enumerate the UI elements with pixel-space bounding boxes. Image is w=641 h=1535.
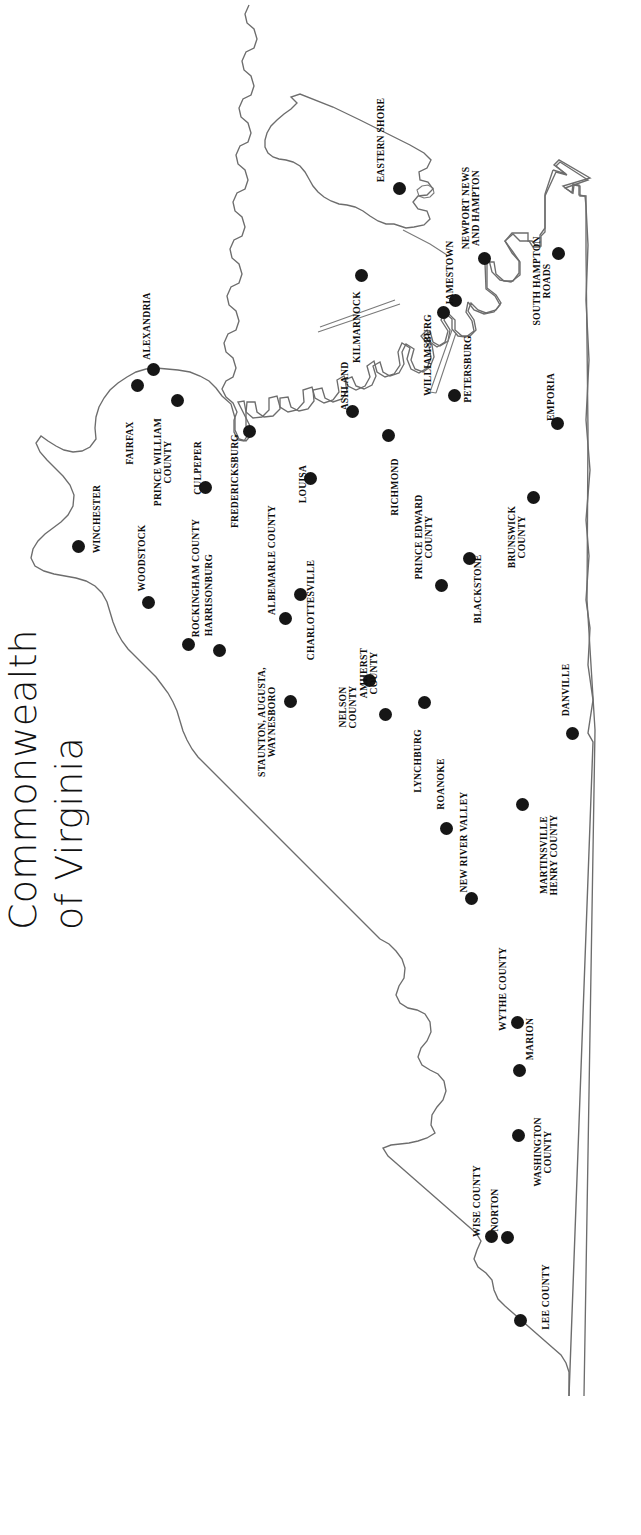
- marker-dot-icon[interactable]: [566, 727, 579, 740]
- marker-label: BLACKSTONE: [473, 555, 483, 624]
- marker-dot-icon[interactable]: [513, 1064, 526, 1077]
- marker-label: WINCHESTER: [92, 485, 102, 554]
- marker-label: SOUTH HAMPTON ROADS: [532, 236, 553, 325]
- marker-label: ALBEMARLE COUNTY: [267, 505, 277, 615]
- marker-dot-icon[interactable]: [355, 269, 368, 282]
- marker-label: FAIRFAX: [125, 421, 135, 465]
- marker-dot-icon[interactable]: [393, 182, 406, 195]
- marker-label: KILMARNOCK: [352, 291, 362, 363]
- map-markers-layer: EASTERN SHOREKILMARNOCKNEWPORT NEWS AND …: [0, 0, 641, 1535]
- marker-label: PRINCE EDWARD COUNTY: [414, 494, 435, 579]
- marker-label: FREDERICKSBURG: [230, 434, 240, 528]
- marker-dot-icon[interactable]: [418, 696, 431, 709]
- marker-dot-icon[interactable]: [72, 540, 85, 553]
- marker-dot-icon[interactable]: [440, 822, 453, 835]
- marker-dot-icon[interactable]: [512, 1129, 525, 1142]
- marker-label: ASHLAND: [340, 362, 350, 411]
- marker-label: LOUISA: [298, 465, 308, 503]
- marker-dot-icon[interactable]: [514, 1314, 527, 1327]
- marker-dot-icon[interactable]: [147, 363, 160, 376]
- marker-label: ALEXANDRIA: [142, 292, 152, 360]
- marker-label: AMHERST COUNTY: [359, 648, 380, 698]
- marker-label: WILLIAMSBURG: [423, 314, 433, 396]
- marker-dot-icon[interactable]: [511, 1016, 524, 1029]
- marker-label: WASHINGTON COUNTY: [533, 1117, 554, 1187]
- marker-label: EMPORIA: [546, 373, 556, 421]
- marker-dot-icon[interactable]: [131, 379, 144, 392]
- marker-label: RICHMOND: [390, 458, 400, 515]
- marker-label: ROCKINGHAM COUNTY: [191, 519, 201, 638]
- marker-dot-icon[interactable]: [284, 695, 297, 708]
- marker-label: PRINCE WILLIAM COUNTY: [153, 418, 174, 506]
- marker-dot-icon[interactable]: [379, 708, 392, 721]
- marker-dot-icon[interactable]: [171, 394, 184, 407]
- marker-dot-icon[interactable]: [478, 252, 491, 265]
- marker-label: DANVILLE: [561, 664, 571, 717]
- marker-dot-icon[interactable]: [448, 389, 461, 402]
- marker-label: PETERSBURG: [463, 335, 473, 403]
- marker-dot-icon[interactable]: [465, 892, 478, 905]
- marker-label: NELSON COUNTY: [338, 685, 359, 728]
- marker-dot-icon[interactable]: [516, 798, 529, 811]
- marker-label: NEW RIVER VALLEY: [459, 791, 469, 892]
- marker-dot-icon[interactable]: [501, 1231, 514, 1244]
- marker-label: WISE COUNTY: [472, 1165, 482, 1237]
- marker-label: WYTHE COUNTY: [498, 947, 508, 1031]
- marker-label: NEWPORT NEWS AND HAMPTON: [461, 167, 482, 250]
- marker-label: CHARLOTTESVILLE: [306, 560, 316, 660]
- marker-label: JAMESTOWN: [445, 241, 455, 306]
- marker-dot-icon[interactable]: [437, 306, 450, 319]
- marker-dot-icon[interactable]: [142, 596, 155, 609]
- marker-label: STAUNTON, AUGUSTA, WAYNESBORO: [257, 667, 278, 777]
- marker-dot-icon[interactable]: [213, 644, 226, 657]
- marker-dot-icon[interactable]: [382, 429, 395, 442]
- marker-dot-icon[interactable]: [435, 579, 448, 592]
- marker-label: MARION: [525, 1018, 535, 1061]
- marker-label: MARTINSVILLE HENRY COUNTY: [539, 815, 560, 896]
- marker-dot-icon[interactable]: [182, 638, 195, 651]
- marker-label: CULPEPER: [193, 441, 203, 495]
- marker-label: WOODSTOCK: [137, 524, 147, 591]
- marker-dot-icon[interactable]: [243, 425, 256, 438]
- marker-dot-icon[interactable]: [552, 247, 565, 260]
- marker-label: LYNCHBURG: [413, 729, 423, 793]
- marker-label: BRUNSWICK COUNTY: [507, 506, 528, 569]
- marker-dot-icon[interactable]: [527, 491, 540, 504]
- marker-label: ROANOKE: [436, 758, 446, 809]
- marker-label: NORTON: [490, 1188, 500, 1231]
- marker-dot-icon[interactable]: [279, 612, 292, 625]
- marker-label: EASTERN SHORE: [376, 98, 386, 183]
- marker-label: HARRISONBURG: [204, 554, 214, 636]
- map-page: Commonwealth of Virginia EASTERN SHOREKI…: [0, 0, 641, 1535]
- marker-label: LEE COUNTY: [541, 1264, 551, 1330]
